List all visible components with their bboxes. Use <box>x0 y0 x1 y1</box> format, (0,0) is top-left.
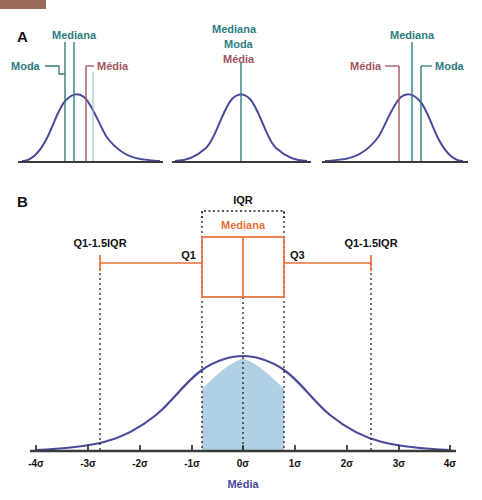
leader-moda-1 <box>45 66 65 74</box>
upper-fence-label: Q1-1.5IQR <box>344 237 397 249</box>
boxplot <box>100 237 371 297</box>
curve-right-skewed <box>22 94 160 161</box>
distribution-left-skewed: Média Mediana Moda <box>322 29 468 162</box>
tick-label-2: -2σ <box>132 458 148 469</box>
q1-label: Q1 <box>181 249 196 261</box>
curve-left-skewed <box>325 94 463 161</box>
label-mediana-2: Mediana <box>212 23 257 35</box>
panel-a-svg: Moda Mediana Média Mediana Moda Média Mé… <box>0 0 482 185</box>
tick-label-8: 4σ <box>444 458 457 469</box>
panel-b-svg: -4σ -3σ -2σ -1σ 0σ 1σ 2σ 3σ 4σ Média IQR… <box>0 185 482 500</box>
iqr-label: IQR <box>233 194 253 206</box>
x-axis-title: Média <box>227 478 259 490</box>
mediana-label-b: Mediana <box>221 219 266 231</box>
distribution-right-skewed: Moda Mediana Média <box>11 29 163 162</box>
distribution-symmetric: Mediana Moda Média <box>172 23 311 162</box>
q3-label: Q3 <box>290 249 305 261</box>
tick-label-3: -1σ <box>184 458 200 469</box>
tick-label-1: -3σ <box>80 458 96 469</box>
label-moda-2: Moda <box>224 38 254 50</box>
label-moda-3: Moda <box>435 60 465 72</box>
figure-root: A B Moda Mediana Média Mediana Moda <box>0 0 482 500</box>
tick-label-6: 2σ <box>341 458 354 469</box>
label-media-1: Média <box>97 60 129 72</box>
tick-label-0: -4σ <box>28 458 44 469</box>
x-axis-tick-labels: -4σ -3σ -2σ -1σ 0σ 1σ 2σ 3σ 4σ <box>28 458 456 469</box>
label-moda-1: Moda <box>11 60 41 72</box>
lower-fence-label: Q1-1.5IQR <box>73 237 126 249</box>
label-media-2: Média <box>223 53 255 65</box>
label-mediana-1: Mediana <box>52 29 97 41</box>
iqr-bracket <box>202 211 284 218</box>
label-mediana-3: Mediana <box>390 29 435 41</box>
tick-label-4: 0σ <box>237 458 250 469</box>
label-media-3: Média <box>350 60 382 72</box>
tick-label-7: 3σ <box>393 458 406 469</box>
tick-label-5: 1σ <box>289 458 302 469</box>
